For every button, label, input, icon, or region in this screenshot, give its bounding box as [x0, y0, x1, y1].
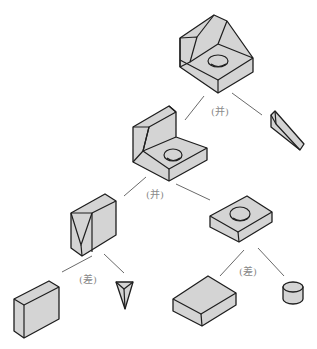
connector-mid-right: [176, 184, 210, 200]
csg-tree-diagram: [0, 0, 317, 349]
connector-root-right: [232, 93, 262, 115]
plate-with-hole-shape: [210, 196, 272, 242]
plain-block-shape: [14, 281, 59, 338]
connector-mid-left: [124, 177, 146, 196]
connector-root-left: [185, 96, 204, 120]
connector-right-right: [258, 248, 284, 276]
operation-label-union-mid: (并): [146, 186, 164, 201]
triangular-prism-shape: [116, 282, 133, 309]
l-bracket-shape: [133, 106, 207, 181]
connector-left-left: [62, 256, 92, 272]
wedge-shape: [271, 111, 304, 150]
operation-label-difference-right: (差): [239, 263, 257, 278]
connector-left-right: [104, 254, 124, 273]
operation-label-difference-left: (差): [79, 271, 97, 286]
block-with-notch-shape: [71, 194, 116, 256]
final-part-shape: [180, 15, 253, 93]
plain-plate-shape: [173, 276, 236, 326]
operation-label-union-root: (并): [211, 103, 229, 118]
cylinder-shape: [283, 282, 303, 304]
